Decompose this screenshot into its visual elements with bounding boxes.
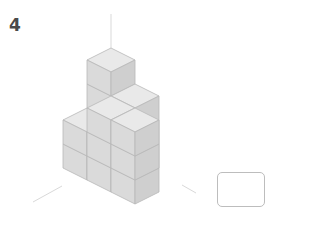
answer-box[interactable] [217,172,265,207]
cubes [63,48,159,204]
